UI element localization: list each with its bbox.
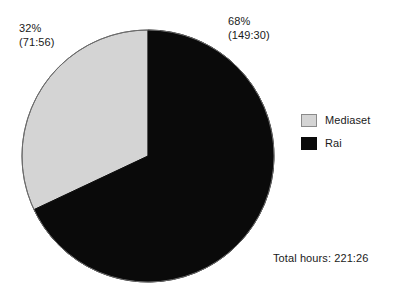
legend-swatch-icon-rai [301, 137, 317, 150]
pie-svg [22, 30, 274, 282]
legend-label-mediaset: Mediaset [325, 114, 370, 127]
callout-mediaset: 32% (71:56) [19, 22, 55, 49]
pie-chart-figure: 32% (71:56) 68% (149:30) Mediaset Rai To… [0, 0, 393, 308]
callout-rai-percent: 68% [228, 15, 270, 29]
legend-swatch-icon-mediaset [301, 114, 317, 127]
chart-legend: Mediaset Rai [301, 113, 370, 150]
callout-mediaset-hours: (71:56) [19, 36, 55, 50]
legend-item-mediaset: Mediaset [301, 113, 370, 127]
pie-graphic [22, 30, 274, 282]
total-hours-label: Total hours: 221:26 [273, 252, 368, 265]
callout-rai-hours: (149:30) [228, 29, 270, 43]
callout-rai: 68% (149:30) [228, 15, 270, 42]
callout-mediaset-percent: 32% [19, 22, 55, 36]
legend-item-rai: Rai [301, 136, 370, 150]
legend-label-rai: Rai [325, 137, 342, 150]
